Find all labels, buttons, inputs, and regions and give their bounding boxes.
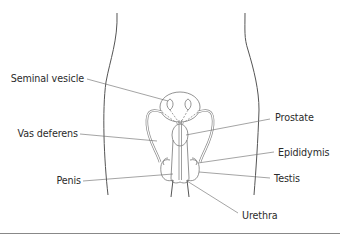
leader-urethra: [187, 181, 238, 213]
leg-left: [171, 180, 173, 197]
bladder-outline: [160, 92, 200, 122]
epididymis-right: [192, 158, 197, 165]
body-outline-left: [104, 13, 117, 195]
epididymis-left: [163, 158, 168, 165]
leader-seminal-vesicle: [87, 79, 168, 101]
diagram-canvas: Seminal vesicle Vas deferens Penis Prost…: [0, 0, 340, 235]
label-vas-deferens: Vas deferens: [17, 129, 78, 139]
label-seminal-vesicle: Seminal vesicle: [11, 74, 84, 84]
leader-testis: [199, 172, 270, 178]
label-prostate: Prostate: [275, 113, 314, 123]
penis-shaft: [171, 140, 189, 183]
seminal-vesicle-left: [167, 99, 173, 110]
leader-prostate: [186, 119, 270, 135]
leader-penis: [83, 174, 173, 181]
leader-vas-deferens: [80, 134, 157, 141]
label-epididymis: Epididymis: [278, 148, 329, 158]
leg-right: [187, 180, 189, 197]
body-outline-right: [245, 13, 259, 195]
prostate: [172, 124, 188, 146]
label-urethra: Urethra: [242, 211, 278, 221]
seminal-vesicle-right: [185, 99, 191, 110]
label-penis: Penis: [56, 176, 81, 186]
leader-epididymis: [198, 152, 274, 163]
label-testis: Testis: [274, 174, 300, 184]
